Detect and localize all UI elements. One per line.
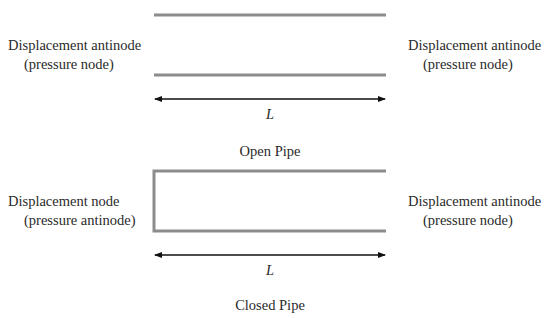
closed-left-line2: (pressure antinode) — [8, 211, 136, 230]
open-pipe-title: Open Pipe — [240, 143, 301, 160]
open-right-line1: Displacement antinode — [408, 37, 541, 53]
closed-right-line1: Displacement antinode — [408, 193, 541, 209]
open-pipe-left-label: Displacement antinode (pressure node) — [8, 36, 141, 74]
closed-pipe-right-label: Displacement antinode (pressure node) — [408, 192, 541, 230]
open-pipe-length-label: L — [266, 106, 274, 123]
closed-pipe-left-label: Displacement node (pressure antinode) — [8, 192, 136, 230]
open-left-line2: (pressure node) — [8, 55, 141, 74]
open-right-line2: (pressure node) — [408, 55, 541, 74]
closed-pipe-walls — [154, 171, 386, 231]
open-pipe-right-label: Displacement antinode (pressure node) — [408, 36, 541, 74]
open-left-line1: Displacement antinode — [8, 37, 141, 53]
closed-right-line2: (pressure node) — [408, 211, 541, 230]
closed-pipe-length-label: L — [266, 262, 274, 279]
closed-pipe-title: Closed Pipe — [235, 297, 305, 314]
closed-left-line1: Displacement node — [8, 193, 120, 209]
